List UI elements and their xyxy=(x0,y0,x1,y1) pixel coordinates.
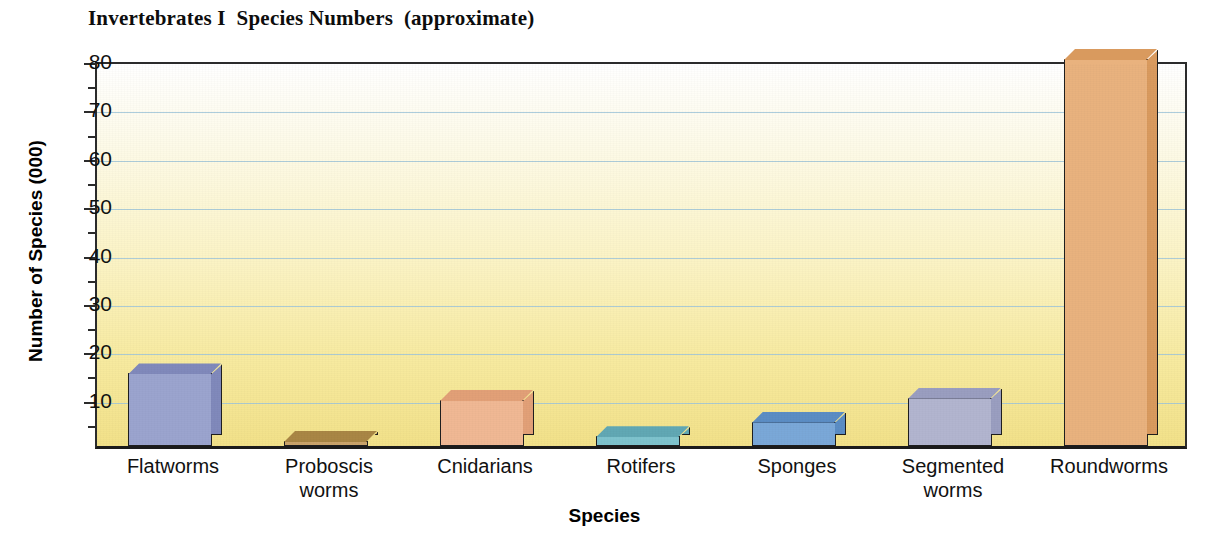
y-tick-minor-45 xyxy=(88,232,97,234)
bar-top-face xyxy=(440,390,533,401)
y-tick-label-20: 20 xyxy=(64,341,112,362)
category-line-1: Flatworms xyxy=(127,455,219,477)
chart-title: Invertebrates I Species Numbers (approxi… xyxy=(88,6,534,31)
y-tick-minor-75 xyxy=(88,87,97,89)
bar-top-face xyxy=(128,363,221,374)
x-category-label-rotifers: Rotifers xyxy=(563,455,719,479)
bar-roundworms xyxy=(1064,59,1148,446)
bar-top-face xyxy=(752,412,845,423)
plot-area xyxy=(95,62,1187,449)
x-category-label-cnidarians: Cnidarians xyxy=(407,455,563,479)
y-tick-minor-5 xyxy=(88,426,97,428)
category-line-2: worms xyxy=(251,479,407,503)
bar-cnidarians xyxy=(440,400,524,446)
y-tick-minor-55 xyxy=(88,184,97,186)
category-line-1: Rotifers xyxy=(607,455,676,477)
y-tick-minor-35 xyxy=(88,281,97,283)
y-axis-title: Number of Species (000) xyxy=(25,61,47,441)
category-line-2: worms xyxy=(875,479,1031,503)
y-tick-minor-65 xyxy=(88,136,97,138)
x-category-label-sponges: Sponges xyxy=(719,455,875,479)
y-tick-label-40: 40 xyxy=(64,245,112,266)
gridline-60 xyxy=(97,161,1185,162)
category-line-1: Segmented xyxy=(902,455,1004,477)
gridline-30 xyxy=(97,306,1185,307)
x-category-label-flatworms: Flatworms xyxy=(95,455,251,479)
bar-sponges xyxy=(752,422,836,446)
x-category-label-proboscis-worms: Proboscisworms xyxy=(251,455,407,502)
bar-chart-figure: Invertebrates I Species Numbers (approxi… xyxy=(0,0,1209,546)
category-line-1: Sponges xyxy=(758,455,837,477)
bar-rotifers xyxy=(596,436,680,446)
bar-segmented-worms xyxy=(908,398,992,446)
bar-top-face xyxy=(908,388,1001,399)
y-tick-minor-25 xyxy=(88,329,97,331)
bar-side-face xyxy=(1147,50,1158,435)
category-line-1: Cnidarians xyxy=(437,455,533,477)
x-category-label-roundworms: Roundworms xyxy=(1031,455,1187,479)
y-tick-label-70: 70 xyxy=(64,99,112,120)
y-tick-label-80: 80 xyxy=(64,51,112,72)
category-line-1: Proboscis xyxy=(285,455,373,477)
y-tick-minor-15 xyxy=(88,377,97,379)
gridline-50 xyxy=(97,209,1185,210)
bar-top-face xyxy=(596,426,689,437)
y-tick-label-50: 50 xyxy=(64,196,112,217)
bar-top-face xyxy=(284,431,377,442)
x-category-label-segmented-worms: Segmentedworms xyxy=(875,455,1031,502)
gridline-70 xyxy=(97,112,1185,113)
x-axis-title: Species xyxy=(0,505,1209,527)
bar-flatworms xyxy=(128,373,212,446)
y-tick-label-10: 10 xyxy=(64,390,112,411)
gridline-20 xyxy=(97,354,1185,355)
gridline-10 xyxy=(97,403,1185,404)
bar-side-face xyxy=(211,364,222,435)
gridline-40 xyxy=(97,258,1185,259)
y-tick-label-30: 30 xyxy=(64,293,112,314)
bar-top-face xyxy=(1064,49,1157,60)
category-line-1: Roundworms xyxy=(1050,455,1168,477)
y-tick-label-60: 60 xyxy=(64,148,112,169)
bar-proboscis-worms xyxy=(284,441,368,446)
